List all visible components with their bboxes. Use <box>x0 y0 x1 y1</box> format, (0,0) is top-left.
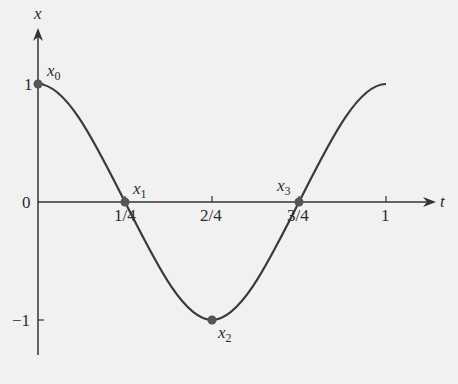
x-tick-label-one: 1 <box>381 207 390 224</box>
x-ticks <box>125 196 386 202</box>
y-tick-label-neg1: −1 <box>12 312 30 329</box>
point-x0 <box>34 80 43 89</box>
y-axis-label: x <box>34 5 42 22</box>
y-tick-label-1: 1 <box>24 76 33 93</box>
annotation-x2: x2 <box>218 324 232 344</box>
annotation-x0: x0 <box>47 62 61 82</box>
x-tick-label-three-quarter: 3/4 <box>287 207 309 224</box>
point-x2 <box>208 316 217 325</box>
x-tick-label-quarter: 1/4 <box>114 207 136 224</box>
x-tick-label-half: 2/4 <box>200 207 222 224</box>
origin-label: 0 <box>22 194 31 211</box>
annotation-x1: x1 <box>133 180 147 200</box>
x-axis-label: t <box>440 193 445 210</box>
annotation-x3: x3 <box>277 177 291 197</box>
